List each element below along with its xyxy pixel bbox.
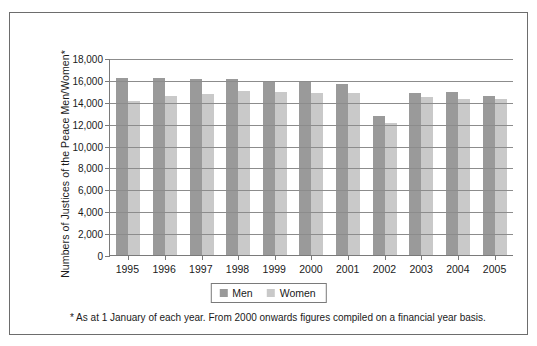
bar-women bbox=[348, 93, 360, 255]
x-axis-tick bbox=[275, 255, 276, 260]
y-axis-tick-label: 14,000 bbox=[72, 97, 103, 108]
x-axis-tick-label: 2000 bbox=[294, 263, 328, 275]
x-axis-tick bbox=[165, 255, 166, 260]
bar-group bbox=[116, 59, 140, 255]
y-axis-tick-label: 16,000 bbox=[72, 75, 103, 86]
legend-swatch-men-icon bbox=[219, 289, 227, 297]
y-axis-tick-label: 12,000 bbox=[72, 119, 103, 130]
y-axis-tick bbox=[105, 190, 110, 191]
x-axis-tick-label: 1999 bbox=[257, 263, 291, 275]
y-axis-tick-label: 18,000 bbox=[72, 54, 103, 65]
bar-men bbox=[153, 78, 165, 255]
bar-women bbox=[421, 97, 433, 255]
bar-women bbox=[458, 99, 470, 256]
y-axis-tick-label: 0 bbox=[97, 251, 103, 262]
y-axis-tick bbox=[105, 103, 110, 104]
chart-legend: Men Women bbox=[210, 283, 326, 303]
bar-group bbox=[373, 59, 397, 255]
y-axis-tick bbox=[105, 125, 110, 126]
bar-men bbox=[336, 84, 348, 255]
gridline bbox=[110, 212, 513, 213]
bar-groups bbox=[110, 59, 513, 255]
y-axis-tick bbox=[105, 234, 110, 235]
x-axis-tick-label: 2005 bbox=[478, 263, 512, 275]
bar-women bbox=[275, 92, 287, 255]
bar-men bbox=[446, 92, 458, 255]
bar-men bbox=[409, 93, 421, 255]
gridline bbox=[110, 147, 513, 148]
legend-label-women: Women bbox=[280, 287, 316, 299]
x-axis-tick-label: 1995 bbox=[110, 263, 144, 275]
y-axis-tick bbox=[105, 59, 110, 60]
y-axis-tick bbox=[105, 256, 110, 257]
y-axis-tick bbox=[105, 168, 110, 169]
gridline bbox=[110, 168, 513, 169]
bar-women bbox=[165, 96, 177, 255]
x-axis-tick bbox=[385, 255, 386, 260]
bar-women bbox=[385, 123, 397, 255]
bar-group bbox=[190, 59, 214, 255]
x-axis-tick-label: 2004 bbox=[441, 263, 475, 275]
chart-footnote: * As at 1 January of each year. From 200… bbox=[70, 311, 490, 325]
x-axis-tick bbox=[495, 255, 496, 260]
gridline bbox=[110, 81, 513, 82]
chart-frame: Numbers of Justices of the Peace Men/Wom… bbox=[9, 12, 528, 335]
plot-area: 18,00016,00014,00012,00010,0008,0006,000… bbox=[109, 59, 513, 256]
y-axis-title: Numbers of Justices of the Peace Men/Wom… bbox=[59, 39, 71, 289]
bar-group bbox=[409, 59, 433, 255]
x-axis-tick bbox=[128, 255, 129, 260]
x-axis-tick-label: 1996 bbox=[147, 263, 181, 275]
y-axis-tick-label: 10,000 bbox=[72, 141, 103, 152]
gridline bbox=[110, 190, 513, 191]
y-axis-tick bbox=[105, 212, 110, 213]
gridline bbox=[110, 234, 513, 235]
gridline bbox=[110, 125, 513, 126]
bar-group bbox=[226, 59, 250, 255]
legend-label-men: Men bbox=[232, 287, 252, 299]
x-axis-tick bbox=[458, 255, 459, 260]
y-axis-tick-label: 2,000 bbox=[78, 229, 103, 240]
x-axis-labels: 1995199619971998199920002001200220032004… bbox=[109, 263, 513, 275]
legend-item-women: Women bbox=[267, 287, 316, 299]
bar-group bbox=[153, 59, 177, 255]
bar-women bbox=[202, 94, 214, 255]
bar-group bbox=[483, 59, 507, 255]
x-axis-tick bbox=[348, 255, 349, 260]
x-axis-tick-label: 1998 bbox=[221, 263, 255, 275]
x-axis-tick-label: 2003 bbox=[404, 263, 438, 275]
bar-group bbox=[299, 59, 323, 255]
legend-item-men: Men bbox=[219, 287, 252, 299]
bar-group bbox=[263, 59, 287, 255]
bar-men bbox=[190, 79, 202, 255]
y-axis-tick-label: 6,000 bbox=[78, 185, 103, 196]
y-axis-tick-label: 4,000 bbox=[78, 207, 103, 218]
x-axis-tick-label: 1997 bbox=[184, 263, 218, 275]
x-axis-tick bbox=[238, 255, 239, 260]
x-axis-tick-label: 2001 bbox=[331, 263, 365, 275]
bar-women bbox=[238, 91, 250, 255]
bar-men bbox=[116, 78, 128, 255]
x-axis-tick bbox=[421, 255, 422, 260]
bar-women bbox=[311, 93, 323, 255]
y-axis-tick bbox=[105, 147, 110, 148]
bar-women bbox=[495, 99, 507, 255]
x-axis-tick bbox=[202, 255, 203, 260]
bar-men bbox=[483, 96, 495, 255]
gridline bbox=[110, 103, 513, 104]
chart-page: Numbers of Justices of the Peace Men/Wom… bbox=[0, 0, 537, 346]
x-axis-tick-label: 2002 bbox=[367, 263, 401, 275]
bar-group bbox=[336, 59, 360, 255]
legend-swatch-women-icon bbox=[267, 289, 275, 297]
y-axis-tick bbox=[105, 81, 110, 82]
x-axis-tick bbox=[311, 255, 312, 260]
bar-group bbox=[446, 59, 470, 255]
bar-men bbox=[226, 79, 238, 255]
gridline bbox=[110, 59, 513, 60]
y-axis-tick-label: 8,000 bbox=[78, 163, 103, 174]
